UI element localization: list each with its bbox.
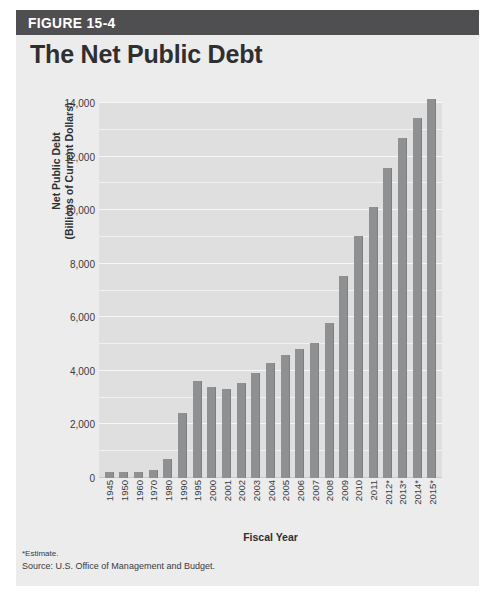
bar[interactable]	[193, 381, 202, 478]
bar[interactable]	[354, 236, 363, 478]
bar-slot	[161, 103, 176, 478]
x-label-slot: 1990	[175, 480, 190, 526]
x-label-slot: 2000	[205, 480, 220, 526]
x-axis-tick-label: 2012*	[382, 480, 393, 505]
bar-slot	[102, 103, 117, 478]
bar-slot	[175, 103, 190, 478]
y-axis-tick-label: 12,000	[35, 151, 95, 162]
x-axis-tick-label: 2000	[206, 480, 217, 501]
x-label-slot: 2011	[366, 480, 381, 526]
x-axis-tick-label: 1980	[162, 480, 173, 501]
y-axis-tick-label: 8,000	[35, 258, 95, 269]
figure-number-label: FIGURE 15-4	[28, 14, 116, 31]
x-label-slot: 2007	[307, 480, 322, 526]
x-axis-tick-label: 2002	[236, 480, 247, 501]
bar[interactable]	[237, 383, 246, 478]
x-label-slot: 2015*	[424, 480, 439, 526]
bar-slot	[424, 103, 439, 478]
x-axis-tick-labels: 1945195019601970198019901995200020012002…	[99, 480, 442, 526]
bar-slot	[190, 103, 205, 478]
bar[interactable]	[178, 413, 187, 478]
y-axis-tick-labels: 02,0004,0006,0008,00010,00012,00014,000	[33, 103, 95, 478]
bar-slot	[322, 103, 337, 478]
x-axis-tick-label: 2015*	[426, 480, 437, 505]
footnote-estimate: *Estimate.	[22, 548, 215, 560]
x-axis-tick-label: 1995	[192, 480, 203, 501]
bar[interactable]	[295, 349, 304, 478]
bar-slot	[380, 103, 395, 478]
bar[interactable]	[207, 387, 216, 478]
x-axis-title: Fiscal Year	[99, 531, 442, 543]
bar-slot	[263, 103, 278, 478]
x-label-slot: 2006	[293, 480, 308, 526]
bar[interactable]	[281, 355, 290, 478]
bar[interactable]	[251, 373, 260, 478]
bar[interactable]	[325, 323, 334, 478]
figure-root: FIGURE 15-4 The Net Public Debt Net Publ…	[0, 0, 495, 596]
x-label-slot: 2014*	[410, 480, 425, 526]
bar-slot	[278, 103, 293, 478]
x-axis-tick-label: 1950	[118, 480, 129, 501]
x-axis-tick-label: 2014*	[412, 480, 423, 505]
bar-slot	[307, 103, 322, 478]
bar[interactable]	[134, 472, 143, 478]
x-axis-tick-label: 2006	[294, 480, 305, 501]
x-label-slot: 2004	[263, 480, 278, 526]
x-label-slot: 2003	[249, 480, 264, 526]
x-axis-tick-label: 2008	[324, 480, 335, 501]
x-label-slot: 2012*	[380, 480, 395, 526]
x-axis-tick-label: 1990	[177, 480, 188, 501]
x-axis-tick-label: 2013*	[397, 480, 408, 505]
x-label-slot: 2008	[322, 480, 337, 526]
y-axis-tick-label: 0	[35, 473, 95, 484]
bar-slot	[205, 103, 220, 478]
y-axis-tick-label: 2,000	[35, 419, 95, 430]
bar[interactable]	[398, 138, 407, 478]
x-axis-tick-label: 2005	[280, 480, 291, 501]
x-label-slot: 2009	[337, 480, 352, 526]
x-label-slot: 1960	[131, 480, 146, 526]
footnote-source: Source: U.S. Office of Management and Bu…	[22, 560, 215, 572]
x-label-slot: 2001	[219, 480, 234, 526]
bar[interactable]	[222, 389, 231, 478]
bar-slot	[117, 103, 132, 478]
bar-slot	[219, 103, 234, 478]
x-axis-tick-label: 1970	[148, 480, 159, 501]
bar[interactable]	[427, 99, 436, 478]
bar[interactable]	[413, 118, 422, 478]
bar[interactable]	[119, 472, 128, 478]
x-axis-tick-label: 2009	[338, 480, 349, 501]
y-axis-tick-label: 4,000	[35, 365, 95, 376]
bar-slot	[337, 103, 352, 478]
x-label-slot: 1970	[146, 480, 161, 526]
x-label-slot: 2013*	[395, 480, 410, 526]
plot-area	[99, 103, 442, 478]
x-axis-tick-label: 2003	[250, 480, 261, 501]
bar[interactable]	[266, 363, 275, 478]
x-label-slot: 2005	[278, 480, 293, 526]
bar-slot	[395, 103, 410, 478]
figure-number-banner: FIGURE 15-4	[16, 10, 479, 35]
bar-slot	[131, 103, 146, 478]
y-axis-tick-label: 14,000	[35, 98, 95, 109]
bar-slot	[351, 103, 366, 478]
bar[interactable]	[383, 168, 392, 478]
bar[interactable]	[339, 276, 348, 478]
x-axis-tick-label: 2011	[368, 480, 379, 500]
bar[interactable]	[163, 459, 172, 478]
bar[interactable]	[105, 472, 114, 478]
x-axis-tick-label: 2007	[309, 480, 320, 501]
x-axis-tick-label: 2001	[221, 480, 232, 501]
bar[interactable]	[149, 470, 158, 478]
bar[interactable]	[310, 343, 319, 478]
bar[interactable]	[369, 207, 378, 478]
bar-slot	[366, 103, 381, 478]
y-axis-tick-label: 10,000	[35, 205, 95, 216]
bar-slot	[146, 103, 161, 478]
figure-footnotes: *Estimate. Source: U.S. Office of Manage…	[22, 548, 215, 572]
bar-slot	[410, 103, 425, 478]
bar-series	[99, 103, 442, 478]
y-axis-tick-label: 6,000	[35, 312, 95, 323]
x-label-slot: 1995	[190, 480, 205, 526]
figure-card: FIGURE 15-4 The Net Public Debt Net Publ…	[16, 10, 479, 586]
